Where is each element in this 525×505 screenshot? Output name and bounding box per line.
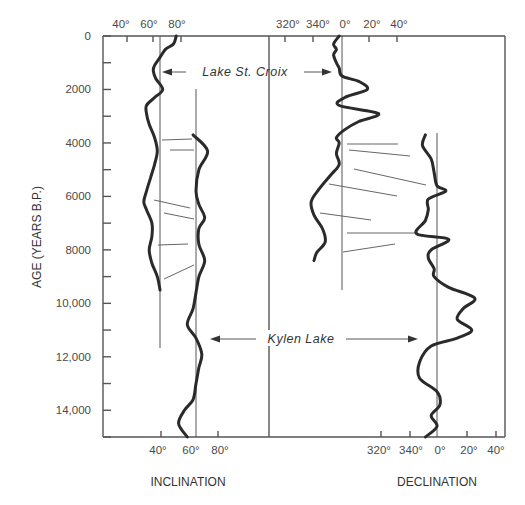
- y-tick-label: 6000: [65, 190, 91, 202]
- inc-top-tick-40: 40°: [112, 18, 129, 30]
- dec-top-tick-0: 0°: [340, 18, 351, 30]
- declination-kylen-lake-curve: [416, 135, 475, 437]
- dec-bottom-tick-40: 40°: [487, 444, 504, 456]
- lake-st-croix-annotation: Lake St. Croix: [162, 65, 332, 79]
- dec-top-tick-320: 320°: [276, 18, 300, 30]
- y-tick-label: 4000: [65, 137, 91, 149]
- data-curves: [144, 36, 475, 437]
- y-tick-label: 10,000: [56, 297, 91, 309]
- inclination-bottom-axis: 40° 60° 80°: [149, 431, 228, 456]
- inclination-axis-title: INCLINATION: [150, 475, 225, 489]
- dec-bottom-tick-340: 340°: [399, 444, 423, 456]
- lake-st-croix-label: Lake St. Croix: [202, 65, 288, 79]
- y-tick-label: 8000: [65, 244, 91, 256]
- tie-lines: [154, 139, 426, 279]
- dec-top-tick-340: 340°: [306, 18, 330, 30]
- reference-lines: [160, 36, 437, 437]
- dec-top-tick-20: 20°: [363, 18, 380, 30]
- y-tick-label: 2000: [65, 83, 91, 95]
- inc-bottom-tick-40: 40°: [149, 444, 166, 456]
- kylen-lake-annotation: Kylen Lake: [210, 330, 418, 346]
- inc-top-tick-60: 60°: [140, 18, 157, 30]
- dec-bottom-tick-320: 320°: [367, 444, 391, 456]
- dec-bottom-tick-0: 0°: [435, 444, 446, 456]
- dec-bottom-tick-20: 20°: [460, 444, 477, 456]
- plot-frame: [103, 36, 505, 437]
- inclination-kylen-lake-curve: [179, 135, 208, 437]
- y-tick-label: 14,000: [56, 404, 91, 416]
- inc-bottom-tick-60: 60°: [182, 444, 199, 456]
- paleomagnetic-chart: 0200040006000800010,00012,00014,000 AGE …: [0, 0, 525, 505]
- declination-axis-title: DECLINATION: [397, 475, 477, 489]
- inc-top-tick-80: 80°: [168, 18, 185, 30]
- y-axis-title: AGE (YEARS B.P.): [30, 186, 44, 288]
- inc-bottom-tick-80: 80°: [211, 444, 228, 456]
- kylen-lake-label: Kylen Lake: [268, 332, 335, 346]
- y-tick-label: 12,000: [56, 351, 91, 363]
- declination-lake-st-croix-curve: [311, 36, 379, 261]
- dec-top-tick-40: 40°: [390, 18, 407, 30]
- declination-bottom-axis: 320° 340° 0° 20° 40°: [367, 431, 505, 456]
- y-tick-label: 0: [85, 30, 91, 42]
